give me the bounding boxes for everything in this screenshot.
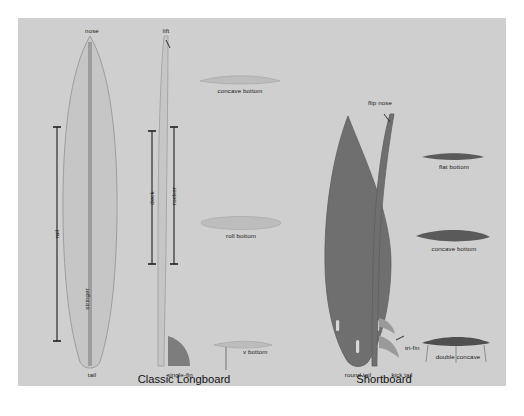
label-longboard-rocker: rocker xyxy=(171,187,177,205)
label-contour-double-concave: double concave xyxy=(436,354,481,360)
label-contour-concave-bottom-left: concave bottom xyxy=(217,88,262,94)
shortboard-deck-outline xyxy=(325,116,391,367)
label-contour-v-bottom: v bottom xyxy=(243,349,268,355)
title-shortboard: Shortboard xyxy=(356,374,411,385)
shortboard-planform xyxy=(325,116,391,367)
label-contour-flat-bottom: flat bottom xyxy=(439,164,469,170)
surfboard-anatomy-figure: nose tail rail stringer deck rocker lift… xyxy=(0,0,524,416)
shortboard-fin-mark-left xyxy=(336,320,339,331)
longboard-contour-concave xyxy=(200,76,280,84)
longboard-contour-v xyxy=(214,341,272,370)
title-classic-longboard: Classic Longboard xyxy=(138,374,231,385)
shortboard-contour-concave xyxy=(416,230,490,241)
diagram-panel: nose tail rail stringer deck rocker lift… xyxy=(18,18,506,386)
longboard-contour-roll xyxy=(201,217,281,230)
label-longboard-deck: deck xyxy=(149,191,155,204)
longboard-stringer-stripe xyxy=(88,42,92,366)
tri-fin-leader-line xyxy=(396,336,404,340)
diagram-canvas xyxy=(18,18,506,386)
label-longboard-tail: tail xyxy=(88,372,96,378)
longboard-planform xyxy=(63,36,117,368)
label-contour-concave-bottom-right: concave bottom xyxy=(431,246,476,252)
shortboard-fin-mark-center xyxy=(356,340,359,353)
label-shortboard-tri-fin: tri-fin xyxy=(405,345,419,351)
label-longboard-lift: lift xyxy=(163,28,170,34)
label-longboard-stringer: stringer xyxy=(84,288,90,309)
longboard-rocker-outline xyxy=(158,36,168,366)
label-contour-roll-bottom: roll bottom xyxy=(226,233,256,239)
longboard-single-fin-shape xyxy=(168,336,190,366)
shortboard-contour-flat xyxy=(422,153,484,160)
label-shortboard-flip-nose: flip nose xyxy=(368,100,392,106)
label-longboard-rail: rail xyxy=(54,230,60,239)
shortboard-tri-fin-shape xyxy=(379,336,399,358)
label-longboard-nose: nose xyxy=(85,28,99,34)
